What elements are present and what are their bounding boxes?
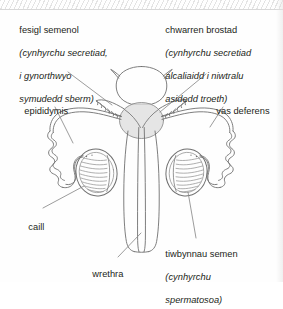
- epididymis-right: [200, 131, 235, 188]
- label-seminiferous-tubules-line2: (cynhyrchu: [165, 272, 210, 282]
- testis-right: [163, 146, 211, 199]
- testis-left: [73, 146, 121, 199]
- label-testis: caill: [18, 211, 44, 245]
- label-epididymis-line1: epididymis: [24, 106, 68, 116]
- label-seminal-vesicle-line1: fesigl semenol: [19, 25, 78, 35]
- label-seminiferous-tubules: tiwbynnau semen (cynhyrchu spermatosoa): [155, 238, 238, 309]
- leader-seminiferous-tubules: [188, 192, 196, 238]
- label-epididymis: epididymis: [14, 95, 68, 129]
- label-seminal-vesicle-line3: i gynorthwyo: [19, 71, 71, 81]
- label-vas-deferens-line1: vas deferens: [216, 106, 269, 116]
- label-seminiferous-tubules-line3: spermatosoa): [165, 295, 222, 305]
- label-prostate-line3: alcaliaidd i niwtralu: [165, 71, 243, 81]
- penis-shaft: [124, 131, 159, 252]
- urethra-canal: [138, 128, 146, 252]
- label-vas-deferens: vas deferens: [206, 95, 270, 129]
- leader-testis: [43, 186, 84, 208]
- label-urethra-line1: wrethra: [92, 269, 123, 279]
- label-prostate-line1: chwarren brostad: [165, 25, 237, 35]
- label-prostate-line2: (cynhyrchu secretiad: [165, 48, 251, 58]
- epididymis-left: [48, 131, 83, 188]
- label-seminal-vesicle-line2: (cynhyrchu secretiad,: [19, 48, 107, 58]
- label-seminiferous-tubules-line1: tiwbynnau semen: [165, 249, 237, 259]
- label-testis-line1: caill: [28, 222, 44, 232]
- label-urethra: wrethra: [82, 258, 123, 292]
